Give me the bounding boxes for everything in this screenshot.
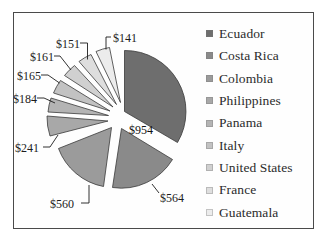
legend-swatch-icon xyxy=(206,52,213,59)
value-label-france: $151 xyxy=(56,37,80,51)
chart-legend: Ecuador Costa Rica Colombia Philippines … xyxy=(206,23,318,223)
legend-item-costa-rica[interactable]: Costa Rica xyxy=(206,45,318,66)
legend-item-guatemala[interactable]: Guatemala xyxy=(206,202,318,223)
legend-item-colombia[interactable]: Colombia xyxy=(206,68,318,89)
leader-line-colombia xyxy=(81,185,89,203)
leader-line-philippines xyxy=(43,135,58,147)
value-label-panama: $184 xyxy=(14,92,37,106)
leader-line-costa-rica xyxy=(152,184,159,193)
leader-line-united-states xyxy=(54,56,71,70)
legend-swatch-icon xyxy=(206,30,213,37)
legend-label: Colombia xyxy=(219,72,273,86)
legend-swatch-icon xyxy=(206,120,213,127)
legend-label: Panama xyxy=(219,116,262,130)
legend-swatch-icon xyxy=(206,97,213,104)
legend-label: United States xyxy=(219,161,293,175)
legend-label: Costa Rica xyxy=(219,49,279,63)
legend-swatch-icon xyxy=(206,164,213,171)
legend-label: Ecuador xyxy=(219,27,265,41)
legend-swatch-icon xyxy=(206,209,213,216)
value-label-colombia: $560 xyxy=(50,197,74,211)
chart-frame: $954 $564 $560 $241 $184 $165 $161 $151 … xyxy=(13,12,314,229)
legend-item-france[interactable]: France xyxy=(206,180,318,201)
legend-swatch-icon xyxy=(206,187,213,194)
pie-chart-svg: $954 $564 $560 $241 $184 $165 $161 $151 … xyxy=(14,13,224,230)
pie-slice-costa-rica[interactable] xyxy=(113,129,173,189)
value-label-guatemala: $141 xyxy=(113,31,137,45)
leader-line-italy xyxy=(41,75,60,83)
legend-label: Philippines xyxy=(219,94,281,108)
legend-swatch-icon xyxy=(206,75,213,82)
legend-item-italy[interactable]: Italy xyxy=(206,135,318,156)
pie-slice-colombia[interactable] xyxy=(59,128,112,187)
pie-chart-area: $954 $564 $560 $241 $184 $165 $161 $151 … xyxy=(14,13,224,230)
value-label-ecuador: $954 xyxy=(129,123,153,137)
legend-label: Guatemala xyxy=(219,206,278,220)
value-label-italy: $165 xyxy=(17,69,41,83)
legend-label: France xyxy=(219,183,256,197)
value-label-united-states: $161 xyxy=(30,50,54,64)
legend-item-ecuador[interactable]: Ecuador xyxy=(206,23,318,44)
legend-swatch-icon xyxy=(206,142,213,149)
legend-item-panama[interactable]: Panama xyxy=(206,113,318,134)
legend-item-philippines[interactable]: Philippines xyxy=(206,90,318,111)
value-label-costa-rica: $564 xyxy=(160,191,184,205)
legend-label: Italy xyxy=(219,139,244,153)
value-label-philippines: $241 xyxy=(15,141,39,155)
legend-item-united-states[interactable]: United States xyxy=(206,157,318,178)
